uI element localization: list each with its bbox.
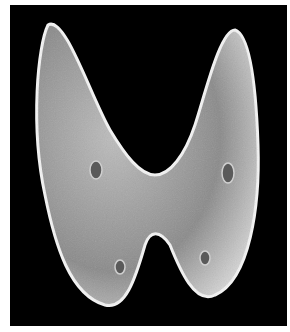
pore: [200, 251, 210, 265]
specimen-shape: [10, 5, 287, 326]
micrograph: [10, 5, 287, 326]
pore: [90, 161, 102, 179]
pore: [115, 260, 125, 274]
image-frame: [0, 0, 290, 332]
pore: [222, 163, 234, 183]
